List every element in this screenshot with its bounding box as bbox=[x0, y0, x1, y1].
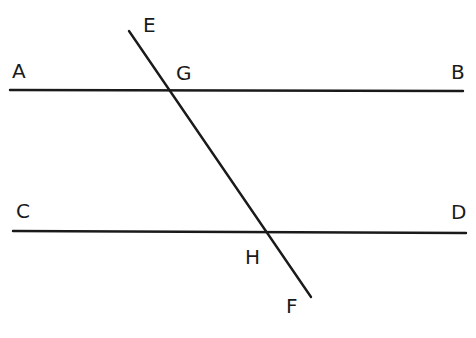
label-c: C bbox=[16, 199, 30, 223]
label-f: F bbox=[286, 294, 298, 318]
label-a: A bbox=[12, 59, 26, 83]
transversal-ef bbox=[129, 31, 311, 297]
line-ab bbox=[10, 90, 463, 91]
label-b: B bbox=[451, 60, 465, 84]
label-d: D bbox=[451, 200, 466, 224]
label-e: E bbox=[143, 13, 156, 37]
line-cd bbox=[13, 231, 466, 233]
diagram-canvas: A B C D E G H F bbox=[0, 0, 476, 338]
label-g: G bbox=[176, 61, 192, 85]
label-h: H bbox=[245, 245, 260, 269]
